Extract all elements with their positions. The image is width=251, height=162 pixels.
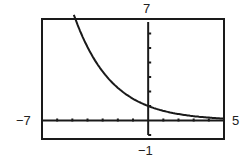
axes (42, 22, 224, 135)
ymin-label: −1 (138, 144, 153, 157)
graph-canvas (0, 0, 251, 162)
xmin-label: −7 (16, 114, 31, 127)
tick-marks (57, 19, 209, 135)
ymax-label: 7 (143, 2, 150, 15)
xmax-label: 5 (232, 114, 239, 127)
